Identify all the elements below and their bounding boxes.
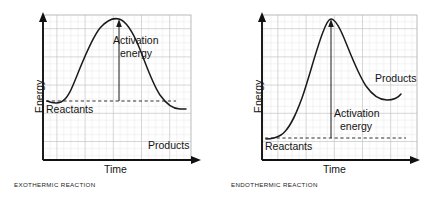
endothermic-reaction-figure: Energy Time Reactants Products Activatio… — [221, 0, 442, 202]
activation-energy-label-line2: energy — [120, 47, 152, 59]
y-axis-title: Energy — [33, 80, 45, 113]
figure-page: Energy Time Reactants Products Activatio… — [0, 0, 443, 202]
x-axis-title: Time — [104, 163, 127, 175]
x-axis-title: Time — [323, 163, 346, 175]
activation-energy-label-line1: Activation — [334, 107, 380, 119]
reactants-label: Reactants — [46, 103, 93, 115]
products-label: Products — [148, 139, 189, 151]
y-axis-title: Energy — [252, 80, 264, 113]
reactants-label: Reactants — [265, 140, 312, 152]
figure-caption: EXOTHERMIC REACTION — [14, 181, 96, 188]
products-label: Products — [375, 72, 416, 84]
figure-caption: ENDOTHERMIC REACTION — [231, 181, 318, 188]
activation-energy-label-line1: Activation — [113, 34, 159, 46]
activation-energy-label-line2: energy — [340, 120, 372, 132]
exothermic-reaction-figure: Energy Time Reactants Products Activatio… — [0, 0, 221, 202]
